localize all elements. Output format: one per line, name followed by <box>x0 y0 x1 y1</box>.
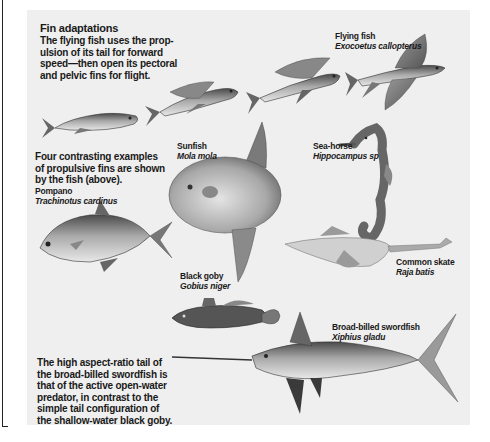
label-black-goby: Black goby Gobius niger <box>180 271 230 291</box>
note-line: simple tail configuration of <box>37 403 172 415</box>
common-name: Broad-billed swordfish <box>332 322 420 332</box>
pompano-illustration <box>40 200 172 272</box>
latin-name: Gobius niger <box>180 281 230 291</box>
note-line: Four contrasting examples <box>35 151 165 163</box>
note-line: predator, in contrast to the <box>37 392 172 404</box>
common-name: Flying fish <box>335 31 422 41</box>
note-line: The high aspect-ratio tail of <box>37 357 172 369</box>
figure-intro: The flying fish uses the prop- ulsion of… <box>40 35 177 81</box>
note-line: by the fish (above). <box>35 174 165 186</box>
figure-title: Fin adaptations <box>40 22 118 35</box>
label-pompano: Pompano Trachinotus cardinus <box>35 186 117 206</box>
note-line: the broad-billed swordfish is <box>37 369 172 381</box>
common-name: Pompano <box>35 186 117 196</box>
common-name: Black goby <box>180 271 230 281</box>
flying-fish-2 <box>145 82 238 126</box>
label-swordfish: Broad-billed swordfish Xiphius gladu <box>332 322 420 342</box>
latin-name: Mola mola <box>177 151 217 161</box>
latin-name: Trachinotus cardinus <box>35 196 117 206</box>
flying-fish-3 <box>246 58 340 114</box>
closing-note: The high aspect-ratio tail of the broad-… <box>37 357 172 427</box>
label-sunfish: Sunfish Mola mola <box>177 141 217 161</box>
intro-line: speed—then open its pectoral <box>40 58 177 70</box>
intro-line: and pelvic fins for flight. <box>40 70 177 82</box>
label-common-skate: Common skate Raja batis <box>396 257 455 277</box>
latin-name: Exocoetus callopterus <box>335 41 422 51</box>
latin-name: Raja batis <box>396 267 455 277</box>
flying-fish-1 <box>42 113 138 138</box>
label-sea-horse: Sea-horse Hippocampus sp <box>313 141 379 161</box>
contrast-note: Four contrasting examples of propulsive … <box>35 151 165 186</box>
note-line: that of the active open-water <box>37 380 172 392</box>
common-name: Common skate <box>396 257 455 267</box>
latin-name: Xiphius gladu <box>332 332 420 342</box>
goby-illustration <box>172 298 280 328</box>
note-line: the shallow-water black goby. <box>37 415 172 427</box>
common-name: Sunfish <box>177 141 217 151</box>
note-line: of propulsive fins are shown <box>35 163 165 175</box>
label-flying-fish: Flying fish Exocoetus callopterus <box>335 31 422 51</box>
latin-name: Hippocampus sp <box>313 151 379 161</box>
common-name: Sea-horse <box>313 141 379 151</box>
intro-line: ulsion of its tail for forward <box>40 47 177 59</box>
intro-line: The flying fish uses the prop- <box>40 35 177 47</box>
